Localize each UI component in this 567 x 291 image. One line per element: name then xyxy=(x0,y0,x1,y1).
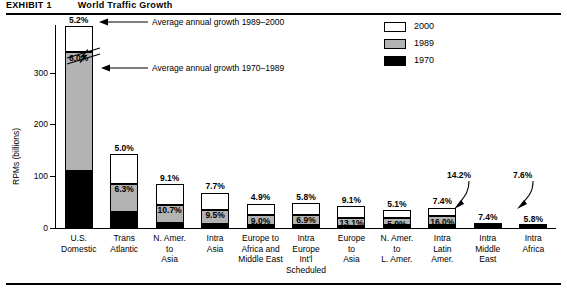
bar-5-segment-1970 xyxy=(247,225,275,228)
x-label-4: IntraAsia xyxy=(192,233,237,254)
x-label-line: Africa xyxy=(511,244,556,255)
legend-label-1989: 1989 xyxy=(414,38,434,48)
y-tick-200 xyxy=(50,124,55,125)
legend-swatch-2000 xyxy=(384,22,406,32)
bar-6-growth-1970-1989: 6.9% xyxy=(292,215,320,225)
x-label-line: East xyxy=(465,254,510,265)
bar-11-growth-1989-2000: 5.8% xyxy=(513,214,553,224)
x-label-1: U.S.Domestic xyxy=(56,233,101,254)
x-label-line: Africa and xyxy=(238,244,283,255)
bar-6-segment-1970 xyxy=(292,225,320,228)
bar-3-growth-1970-1989: 10.7% xyxy=(156,205,184,215)
x-label-line: Int'l xyxy=(283,254,328,265)
x-label-line: Latin xyxy=(420,244,465,255)
bar-6-segment-2000 xyxy=(292,203,320,214)
bar-7-growth-1970-1989: 13.1% xyxy=(337,218,365,228)
bar-2-growth-1970-1989: 6.3% xyxy=(110,184,138,194)
callout-leader-2 xyxy=(521,181,533,205)
x-label-line: N. Amer. xyxy=(147,233,192,244)
x-label-7: EuropetoAsia xyxy=(329,233,374,265)
x-label-line: Asia xyxy=(192,244,237,255)
x-label-line: Asia xyxy=(147,254,192,265)
x-label-line: Europe xyxy=(283,244,328,255)
bar-4-segment-2000 xyxy=(201,193,229,210)
x-label-line: L. Amer. xyxy=(374,254,419,265)
bar-3-segment-2000 xyxy=(156,184,184,205)
x-label-6: IntraEuropeInt'lScheduled xyxy=(283,233,328,275)
bar-9[interactable]: 16.0%7.4% xyxy=(428,208,456,228)
bar-10-growth-1989-2000: 7.4% xyxy=(468,212,508,222)
x-label-line: Amer. xyxy=(420,254,465,265)
bar-11-segment-2000 xyxy=(519,224,547,226)
bar-3-growth-1989-2000: 9.1% xyxy=(150,173,190,183)
bar-9-segment-2000 xyxy=(428,208,456,216)
x-label-line: Intra xyxy=(511,233,556,244)
bar-1-growth-1989-2000: 5.2% xyxy=(59,15,99,25)
annotation-arrow-head-2 xyxy=(101,64,110,71)
bar-1-segment-1989 xyxy=(65,52,93,171)
bar-2-growth-1989-2000: 5.0% xyxy=(104,143,144,153)
bar-7-segment-2000 xyxy=(337,206,365,217)
y-tick-label-100: 100 xyxy=(14,171,48,181)
bar-10-segment-2000 xyxy=(474,223,502,225)
x-label-line: Europe xyxy=(329,233,374,244)
bar-5[interactable]: 9.0%4.9% xyxy=(247,204,275,228)
bar-8-growth-1989-2000: 5.1% xyxy=(377,199,417,209)
annotation-growth-1970-1989: Average annual growth 1970–1989 xyxy=(152,63,284,73)
bar-3[interactable]: 10.7%9.1% xyxy=(156,184,184,228)
y-tick-label-300: 300 xyxy=(14,68,48,78)
legend-label-2000: 2000 xyxy=(414,21,434,31)
x-label-2: TransAtlantic xyxy=(101,233,146,254)
x-label-line: Intra xyxy=(465,233,510,244)
bar-1-growth-1970-1989: 6.0% xyxy=(65,53,93,63)
exhibit-title-text: World Traffic Growth xyxy=(78,0,173,10)
y-tick-0 xyxy=(50,228,55,229)
x-label-3: N. Amer.toAsia xyxy=(147,233,192,265)
bar-5-growth-1970-1989: 9.0% xyxy=(247,216,275,226)
bar-2-segment-1970 xyxy=(110,212,138,228)
legend-swatch-1989 xyxy=(384,39,406,49)
exhibit-title: EXHIBIT 1World Traffic Growth xyxy=(6,0,173,12)
legend-swatch-1970 xyxy=(384,56,406,66)
bar-4-growth-1989-2000: 7.7% xyxy=(195,181,235,191)
x-label-5: Europe toAfrica andMiddle East xyxy=(238,233,283,265)
x-label-line: Domestic xyxy=(56,244,101,255)
bar-8-growth-1970-1989: 5.9% xyxy=(383,219,411,229)
x-label-10: IntraMiddleEast xyxy=(465,233,510,265)
bar-1[interactable]: 6.0%5.2% xyxy=(65,26,93,228)
y-tick-100 xyxy=(50,176,55,177)
bar-8-segment-2000 xyxy=(383,210,411,218)
bar-1-segment-1970 xyxy=(65,171,93,228)
x-label-line: Intra xyxy=(192,233,237,244)
bar-1-segment-2000 xyxy=(65,26,93,52)
x-label-line: to xyxy=(374,244,419,255)
y-tick-label-200: 200 xyxy=(14,119,48,129)
x-label-11: IntraAfrica xyxy=(511,233,556,254)
bottom-divider xyxy=(6,283,561,285)
x-label-line: Intra xyxy=(420,233,465,244)
x-label-line: Trans xyxy=(101,233,146,244)
bar-2[interactable]: 6.3%5.0% xyxy=(110,154,138,228)
bar-10[interactable]: 7.4% xyxy=(474,224,502,228)
x-label-line: U.S. xyxy=(56,233,101,244)
x-label-line: to xyxy=(329,244,374,255)
bar-7[interactable]: 13.1%9.1% xyxy=(337,206,365,228)
x-label-line: Middle xyxy=(465,244,510,255)
callout-arrow-head-2 xyxy=(517,200,527,209)
exhibit-number: EXHIBIT 1 xyxy=(6,0,52,10)
y-tick-300 xyxy=(50,73,55,74)
bar-6[interactable]: 6.9%5.8% xyxy=(292,203,320,228)
bar-4-segment-1970 xyxy=(201,224,229,228)
x-label-9: IntraLatinAmer. xyxy=(420,233,465,265)
x-label-line: Asia xyxy=(329,254,374,265)
bar-8[interactable]: 5.9%5.1% xyxy=(383,210,411,228)
y-axis-line xyxy=(55,25,56,229)
y-tick-label-0: 0 xyxy=(14,223,48,233)
bar-4[interactable]: 9.5%7.7% xyxy=(201,193,229,228)
x-axis-baseline xyxy=(56,228,556,229)
bar-5-segment-2000 xyxy=(247,204,275,215)
bar-11[interactable]: 5.8% xyxy=(519,225,547,228)
x-label-line: N. Amer. xyxy=(374,233,419,244)
x-label-line: Europe to xyxy=(238,233,283,244)
callout-label-intra-middle-east: 14.2% xyxy=(447,170,471,180)
